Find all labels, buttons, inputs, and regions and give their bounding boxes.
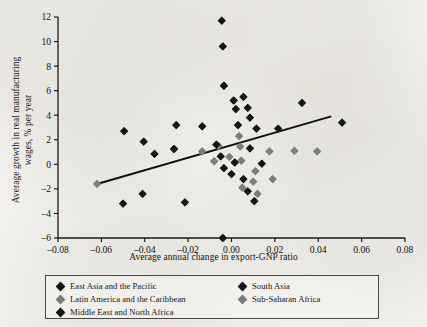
data-point-marker [211,158,218,165]
data-point-marker [252,168,259,175]
data-point-marker [244,104,251,111]
data-point-marker [218,17,225,24]
legend-item[interactable]: South Asia [238,281,290,291]
data-point-marker [121,128,128,135]
data-point-marker [254,190,261,197]
y-axis-tick-label: 0 [46,159,51,170]
y-axis-tick-label: 12 [41,11,51,22]
data-point-marker [219,43,226,50]
data-point-marker [266,148,273,155]
data-point-marker [258,160,265,167]
legend-diamond-icon [238,294,248,304]
legend-item-label: Middle East and North Africa [70,307,174,317]
data-point-marker [232,106,239,113]
data-point-marker [246,114,253,121]
legend-diamond-icon [238,281,248,291]
y-axis-tick-label: 6 [46,85,51,96]
legend-entries-container: East Asia and the PacificLatin America a… [46,276,378,318]
data-point-marker [240,93,247,100]
legend-diamond-icon [56,307,66,317]
legend: East Asia and the PacificLatin America a… [45,275,379,319]
y-axis-title-group: Average growth in real manufacturing wag… [10,10,36,250]
data-point-marker [217,153,224,160]
y-axis-tick-label: –4 [40,208,51,219]
x-axis-title: Average annual change in export-GNP rati… [0,252,427,262]
y-axis-tick-label: –6 [40,232,51,243]
data-point-marker [173,122,180,129]
data-point-marker [120,200,127,207]
data-point-marker [94,180,101,187]
data-point-marker [199,123,206,130]
legend-item[interactable]: Latin America and the Caribbean [56,294,186,304]
data-point-marker [235,122,242,129]
legend-item-label: East Asia and the Pacific [70,281,157,291]
data-point-marker [171,145,178,152]
legend-item[interactable]: Middle East and North Africa [56,307,174,317]
data-point-marker [236,133,243,140]
data-point-marker [140,138,147,145]
data-point-marker [251,198,258,205]
legend-diamond-icon [56,281,66,291]
legend-diamond-icon [56,294,66,304]
y-axis-tick-label: 8 [46,61,51,72]
y-axis-tick-label: 4 [46,110,51,121]
data-point-marker [226,153,233,160]
y-axis-title-line2: wages, % per year [22,10,34,250]
data-point-marker [228,171,235,178]
data-point-marker [230,97,237,104]
data-point-marker [139,190,146,197]
y-axis-tick-label: 10 [41,36,51,47]
data-point-marker [269,176,276,183]
scatter-series [120,165,258,242]
y-axis-tick-label: –2 [40,183,51,194]
y-axis-tick-label: 2 [46,134,51,145]
data-point-marker [231,159,238,166]
legend-item[interactable]: Sub-Saharan Africa [238,294,320,304]
scatter-series [121,17,346,160]
data-point-marker [220,165,227,172]
scatter-series [94,133,321,198]
data-point-marker [298,99,305,106]
legend-item[interactable]: East Asia and the Pacific [56,281,157,291]
data-point-marker [181,199,188,206]
legend-item-label: Sub-Saharan Africa [252,294,320,304]
data-point-marker [238,157,245,164]
data-point-marker [291,147,298,154]
data-point-marker [250,178,257,185]
data-point-marker [240,176,247,183]
y-axis-title-line1: Average growth in real manufacturing [10,10,22,250]
data-point-marker [314,148,321,155]
data-point-marker [246,145,253,152]
data-point-marker [151,150,158,157]
scatter-plot-figure: –6–4–2024681012–0.08–0.06–0.04–0.020.000… [0,0,427,327]
data-point-marker [339,119,346,126]
legend-item-label: South Asia [252,281,290,291]
data-point-marker [219,235,226,242]
legend-item-label: Latin America and the Caribbean [70,294,186,304]
data-point-marker [220,82,227,89]
data-point-marker [253,125,260,132]
